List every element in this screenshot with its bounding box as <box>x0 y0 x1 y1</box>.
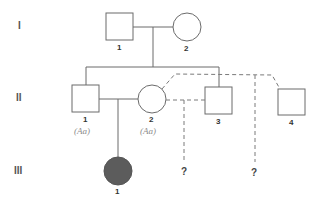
individual-III-1-number: 1 <box>115 187 120 196</box>
individual-II-2-genotype: (Aa) <box>140 126 156 136</box>
individual-II-3-number: 3 <box>216 117 221 126</box>
individual-II-4-male <box>278 89 305 115</box>
pedigree-diagram: I II III 1 2 1 (Aa) 2 (Aa) 3 4 ? ? 1 <box>0 0 327 203</box>
hypothetical-offspring-1: ? <box>181 166 187 177</box>
individual-III-1-female-affected <box>104 157 132 185</box>
individual-II-1-male <box>72 85 99 112</box>
generation-label-III: III <box>14 165 23 176</box>
individual-I-2-number: 2 <box>184 44 189 53</box>
individual-I-1-male <box>106 13 133 40</box>
hypothetical-offspring-2: ? <box>251 167 257 178</box>
individual-II-2-number: 2 <box>149 115 154 124</box>
generation-label-I: I <box>18 20 21 31</box>
individual-II-4-number: 4 <box>289 118 294 127</box>
generation-label-II: II <box>16 92 22 103</box>
individual-II-1-genotype: (Aa) <box>74 126 90 136</box>
individual-II-3-male <box>205 87 232 114</box>
individual-II-2-female <box>138 85 166 113</box>
individual-I-2-female <box>173 13 201 41</box>
individual-I-1-number: 1 <box>117 43 122 52</box>
individual-II-1-number: 1 <box>83 115 88 124</box>
